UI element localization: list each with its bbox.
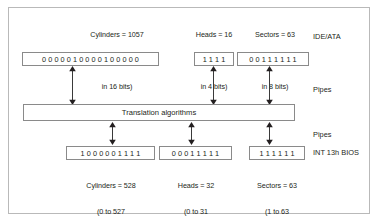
side-label-pipes-top: Pipes [313, 85, 332, 94]
caption-line-1: Heads = 16 [183, 31, 245, 40]
diagram-canvas: Cylinders = 1057 (0 to 1056 in 16 bits) … [0, 0, 381, 224]
bitbox-sectors-bottom: 1 1 1 1 1 1 [249, 146, 305, 160]
caption-line-1: Cylinders = 1057 [52, 31, 182, 40]
translation-algorithms-box: Translation algorithms [23, 104, 295, 121]
bit-string: 1 1 1 1 1 1 [259, 149, 294, 158]
bit-string: 1 0 0 0 0 0 1 1 1 1 [81, 149, 141, 158]
caption-line-1: Heads = 32 [161, 182, 231, 191]
caption-line-1: Cylinders = 528 [62, 182, 160, 191]
bit-string: 0 0 1 1 1 1 1 1 [249, 55, 296, 64]
caption-cylinders-bottom: Cylinders = 528 (0 to 527 in 10 bits) [62, 165, 160, 224]
bit-string: 0 0 0 0 0 1 0 0 0 0 1 0 0 0 0 0 [42, 55, 139, 64]
side-label-ide-ata: IDE/ATA [313, 32, 341, 41]
caption-line-2: (0 to 31 [161, 208, 231, 217]
translation-algorithms-label: Translation algorithms [122, 108, 196, 117]
bitbox-sectors-top: 0 0 1 1 1 1 1 1 [237, 52, 309, 66]
arrow-sectors-top [265, 66, 274, 105]
bit-string: 0 0 0 1 1 1 1 1 [172, 149, 219, 158]
side-label-pipes-bottom: Pipes [313, 130, 332, 139]
bitbox-heads-top: 1 1 1 1 [194, 52, 234, 66]
caption-line-3: in 8 bits) [243, 83, 307, 92]
caption-line-1: Sectors = 63 [243, 31, 307, 40]
caption-line-2: (0 to 527 [62, 208, 160, 217]
arrow-heads-bottom [187, 122, 196, 145]
caption-heads-bottom: Heads = 32 (0 to 31 in 8 bits) [161, 165, 231, 224]
arrow-sectors-bottom [265, 122, 274, 145]
arrow-cylinders-top [68, 66, 77, 105]
caption-line-2: (1 to 63 [240, 208, 314, 217]
caption-sectors-bottom: Sectors = 63 (1 to 63 in 6 bits) [240, 165, 314, 224]
arrow-heads-top [209, 66, 218, 105]
arrow-cylinders-bottom [108, 122, 117, 145]
bitbox-cylinders-top: 0 0 0 0 0 1 0 0 0 0 1 0 0 0 0 0 [22, 52, 159, 66]
side-label-int13h-bios: INT 13h BIOS [313, 148, 359, 157]
caption-line-1: Sectors = 63 [240, 182, 314, 191]
bitbox-cylinders-bottom: 1 0 0 0 0 0 1 1 1 1 [66, 146, 155, 160]
bitbox-heads-bottom: 0 0 0 1 1 1 1 1 [159, 146, 232, 160]
bit-string: 1 1 1 1 [203, 55, 226, 64]
